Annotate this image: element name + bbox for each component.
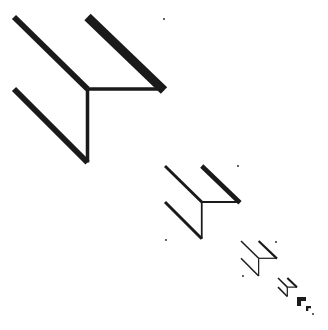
corner-2-shape	[165, 166, 240, 239]
upper-right-diagonal-edge	[88, 17, 165, 91]
lower-left-diagonal-edge	[278, 287, 287, 296]
corner-1-shape	[14, 17, 164, 163]
speck-dot	[312, 313, 314, 315]
speck-dot	[242, 275, 244, 277]
corner-block	[297, 297, 306, 306]
speck-dot	[237, 165, 239, 167]
corner-5-shape	[297, 297, 306, 306]
upper-right-diagonal-edge	[202, 166, 240, 203]
upper-right-diagonal-edge	[259, 241, 277, 259]
upper-left-diagonal-edge	[278, 278, 287, 287]
lower-left-diagonal-edge	[165, 202, 202, 239]
recursive-corner-illustration	[0, 0, 328, 330]
upper-right-diagonal-edge	[287, 278, 297, 287]
lower-left-diagonal-edge	[14, 89, 88, 163]
speck-dot	[165, 239, 167, 241]
figure-canvas: Recursive series of isometric open-corne…	[0, 0, 328, 330]
corner-3-shape	[241, 241, 277, 276]
corner-4-shape	[278, 278, 297, 296]
upper-left-diagonal-edge	[165, 166, 202, 202]
upper-left-diagonal-edge	[241, 241, 259, 258]
lower-left-diagonal-edge	[241, 258, 259, 276]
corner-6-shape	[306, 306, 311, 311]
upper-left-diagonal-edge	[14, 17, 88, 89]
corner-block	[306, 306, 311, 311]
speck-dot	[275, 241, 277, 243]
speck-dot	[163, 18, 165, 20]
